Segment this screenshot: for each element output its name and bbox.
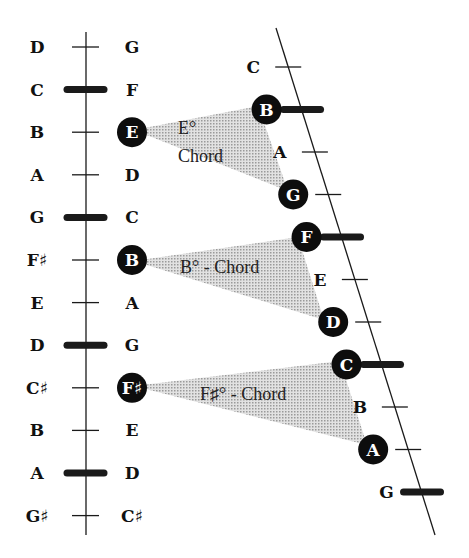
left-note-label: D [30,37,45,57]
slanted-note-label: D [326,312,341,332]
slanted-note-label: A [272,142,287,162]
right-note-label: C♯ [121,506,143,526]
slanted-note-label: G [379,482,394,502]
left-note-label: C♯ [26,378,48,398]
slanted-note-label: G [286,185,301,205]
slanted-note-label: B [259,100,273,120]
left-note-label: B [30,420,44,440]
e-dim-chord-label-line2: Chord [178,146,223,166]
left-note-label: E [31,293,44,313]
left-note-label: C [30,80,44,100]
right-note-label: D [125,463,140,483]
fsharp-dim-chord-label: F♯° - Chord [200,384,286,404]
slanted-note-label: E [313,270,326,290]
right-note-label: G [125,335,140,355]
right-note-label: D [125,165,140,185]
left-note-label: B [30,122,44,142]
chord-triangle-b-dim [134,237,324,320]
slanted-note-label: A [366,440,381,460]
slanted-note-label: F [301,227,313,247]
e-dim-chord-label-line1: E° [178,118,196,138]
right-note-label: E [126,420,139,440]
b-dim-chord-label: B° - Chord [180,257,259,277]
left-column-labels: DCBAGF♯EDC♯BAG♯ [26,37,49,526]
right-column-labels: GFEDCBAGF♯EDC♯ [117,37,147,526]
left-note-label: D [30,335,45,355]
left-note-label: F♯ [27,250,47,270]
right-note-label: G [125,37,140,57]
right-note-label: A [124,293,139,313]
left-note-label: A [29,463,44,483]
right-note-label: B [125,250,139,270]
slanted-note-label: B [353,397,367,417]
right-note-label: F [126,80,138,100]
left-note-label: G [30,207,45,227]
right-note-label: E [126,122,139,142]
right-note-label: C [125,207,139,227]
slanted-note-label: C [340,355,354,375]
left-note-label: A [29,165,44,185]
left-note-label: G♯ [26,506,49,526]
diminished-chords-diagram: DCBAGF♯EDC♯BAG♯ GFEDCBAGF♯EDC♯ CBAGFEDCB… [0,0,469,558]
slanted-note-label: C [246,57,260,77]
right-note-label: F♯ [122,378,142,398]
